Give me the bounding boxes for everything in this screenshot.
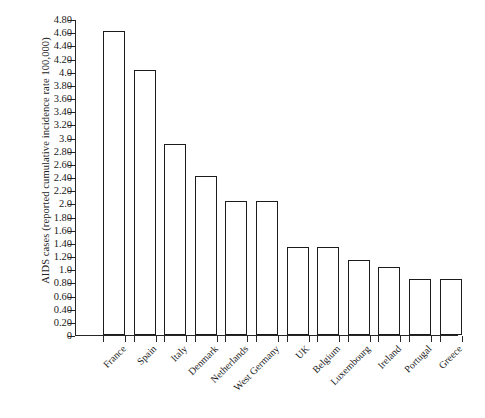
y-tick-label: 3.20 <box>54 118 72 131</box>
bar <box>440 279 462 335</box>
x-tick-mark <box>125 336 126 342</box>
y-tick-label: 2.0 <box>59 197 72 210</box>
bar <box>195 176 217 335</box>
y-tick-label: 4.20 <box>54 53 72 66</box>
bar <box>256 201 278 335</box>
x-tick-mark <box>256 336 257 342</box>
x-tick-label: Italy <box>168 343 189 364</box>
x-tick-mark <box>134 336 135 342</box>
x-tick-mark <box>164 336 165 342</box>
y-tick-label: 0 <box>67 329 72 342</box>
y-tick-label: 1.40 <box>54 237 72 250</box>
bar <box>103 31 125 335</box>
y-tick-label: 1.80 <box>54 211 72 224</box>
x-tick-label: UK <box>293 343 311 361</box>
y-tick-label: 2.20 <box>54 184 72 197</box>
chart-figure: AIDS cases (reported cumulative incidenc… <box>0 0 485 418</box>
y-tick-label: 4.40 <box>54 39 72 52</box>
bar <box>164 144 186 335</box>
y-tick-label: 3.80 <box>54 79 72 92</box>
y-axis-line <box>75 20 76 336</box>
y-tick-label: 2.80 <box>54 145 72 158</box>
bar <box>348 260 370 335</box>
x-tick-mark <box>400 336 401 342</box>
y-tick-label: 3.40 <box>54 105 72 118</box>
y-tick-label: 2.60 <box>54 158 72 171</box>
plot-area: 00.200.400.600.801.01.201.401.601.802.02… <box>75 20 458 336</box>
x-tick-mark <box>247 336 248 342</box>
bar <box>134 70 156 335</box>
x-tick-mark <box>195 336 196 342</box>
y-tick-label: 4.60 <box>54 26 72 39</box>
x-tick-label: Ireland <box>375 343 403 371</box>
y-axis-title: AIDS cases (reported cumulative incidenc… <box>40 11 51 311</box>
y-tick-label: 3.60 <box>54 92 72 105</box>
x-tick-mark <box>409 336 410 342</box>
x-tick-mark <box>309 336 310 342</box>
y-tick-label: 4.80 <box>54 13 72 26</box>
y-tick-label: 4.0 <box>59 66 72 79</box>
bar <box>378 267 400 335</box>
x-tick-mark <box>378 336 379 342</box>
x-tick-mark <box>217 336 218 342</box>
bar <box>317 247 339 335</box>
bar <box>409 279 431 335</box>
y-tick-label: 1.0 <box>59 263 72 276</box>
y-tick-label: 0.40 <box>54 303 72 316</box>
x-tick-mark <box>287 336 288 342</box>
x-tick-mark <box>317 336 318 342</box>
y-tick-label: 0.60 <box>54 290 72 303</box>
bar <box>287 247 309 335</box>
x-tick-label: Spain <box>134 343 158 367</box>
x-tick-label: Portugal <box>402 343 434 375</box>
y-tick-label: 1.60 <box>54 224 72 237</box>
x-tick-label: France <box>101 343 128 370</box>
y-tick-label: 0.80 <box>54 276 72 289</box>
x-tick-mark <box>370 336 371 342</box>
x-tick-mark <box>348 336 349 342</box>
y-tick-label: 2.40 <box>54 171 72 184</box>
x-tick-mark <box>440 336 441 342</box>
x-tick-mark <box>462 336 463 342</box>
x-tick-mark <box>186 336 187 342</box>
x-tick-mark <box>431 336 432 342</box>
x-tick-mark <box>156 336 157 342</box>
y-tick-label: 3.0 <box>59 132 72 145</box>
x-tick-mark <box>103 336 104 342</box>
x-tick-mark <box>225 336 226 342</box>
x-tick-mark <box>339 336 340 342</box>
y-tick-label: 0.20 <box>54 316 72 329</box>
x-tick-mark <box>278 336 279 342</box>
x-tick-label: Greece <box>437 343 465 371</box>
bar <box>225 201 247 335</box>
y-tick-label: 1.20 <box>54 250 72 263</box>
